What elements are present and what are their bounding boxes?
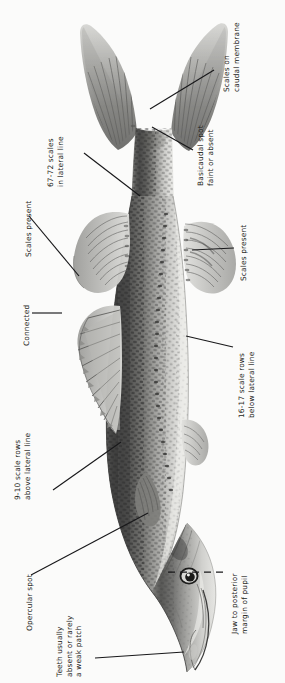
label-line-3: a weak patch <box>74 616 84 677</box>
label-line-2: below lateral line <box>247 352 257 418</box>
label-opercular-spot: Opercular spot <box>25 574 35 631</box>
label-line-1: 16-17 scale rows <box>237 352 247 418</box>
label-line-1: Jaw to posterior <box>230 573 240 634</box>
label-line-1: Scales present <box>24 201 34 257</box>
pupil <box>185 572 195 581</box>
label-line-2: caudal membrane <box>232 22 242 92</box>
label-line-2: absent or rarely <box>65 616 75 677</box>
label-scale-rows-above-lateral-line: 9-10 scale rows above lateral line <box>13 433 32 500</box>
label-teeth: Teeth usually absent or rarely a weak pa… <box>55 616 84 677</box>
label-line-1: Connected <box>22 305 32 346</box>
label-scales-present-dorsal: Scales present <box>24 201 34 257</box>
label-line-1: 9-10 scale rows <box>13 433 23 500</box>
label-line-1: 67-72 scales <box>46 136 56 187</box>
label-scales-on-caudal-membrane: Scales on caudal membrane <box>222 22 241 92</box>
label-line-2: above lateral line <box>23 433 33 500</box>
label-line-2: margin of pupil <box>240 573 250 634</box>
label-line-1: Scales present <box>239 225 249 281</box>
label-lateral-line-scale-count: 67-72 scales in lateral line <box>46 136 65 187</box>
label-line-1: Teeth usually <box>55 616 65 677</box>
fish-identification-plate: Scales on caudal membrane Basicaudal spo… <box>0 0 285 683</box>
label-jaw-to-posterior-margin-of-pupil: Jaw to posterior margin of pupil <box>230 573 249 634</box>
label-line-2: in lateral line <box>56 136 66 187</box>
label-connected: Connected <box>22 305 32 346</box>
label-line-1: Scales on <box>222 22 232 92</box>
caudal-peduncle <box>128 126 176 202</box>
label-scale-rows-below-lateral-line: 16-17 scale rows below lateral line <box>237 352 256 418</box>
label-scales-present-anal: Scales present <box>239 225 249 281</box>
label-line-1: Opercular spot <box>25 574 35 631</box>
label-basicaudal-spot: Basicaudal spot faint or absent <box>196 125 215 186</box>
label-line-2: faint or absent <box>206 125 216 186</box>
label-line-1: Basicaudal spot <box>196 125 206 186</box>
eye <box>180 568 199 585</box>
